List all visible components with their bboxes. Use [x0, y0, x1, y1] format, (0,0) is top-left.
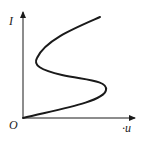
x-axis-label: ·u [122, 121, 131, 135]
s-curve [23, 17, 106, 118]
iu-diagram: I O ·u [0, 0, 143, 147]
y-axis-label: I [8, 14, 14, 28]
origin-label: O [9, 118, 18, 132]
